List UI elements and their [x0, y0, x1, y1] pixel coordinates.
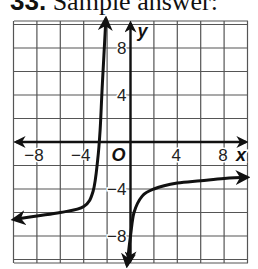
rational-function-graph: −8−44884−4−8Oxy — [0, 0, 258, 269]
curve-right-branch — [127, 177, 248, 265]
svg-text:4: 4 — [117, 86, 126, 105]
svg-text:8: 8 — [218, 146, 227, 165]
svg-text:−8: −8 — [107, 227, 126, 246]
svg-text:x: x — [235, 145, 247, 165]
svg-text:−4: −4 — [107, 180, 126, 199]
svg-text:−8: −8 — [24, 146, 43, 165]
svg-text:y: y — [136, 21, 148, 41]
svg-text:O: O — [111, 145, 125, 165]
svg-text:8: 8 — [117, 39, 126, 58]
svg-text:4: 4 — [172, 146, 181, 165]
svg-text:−4: −4 — [71, 146, 90, 165]
